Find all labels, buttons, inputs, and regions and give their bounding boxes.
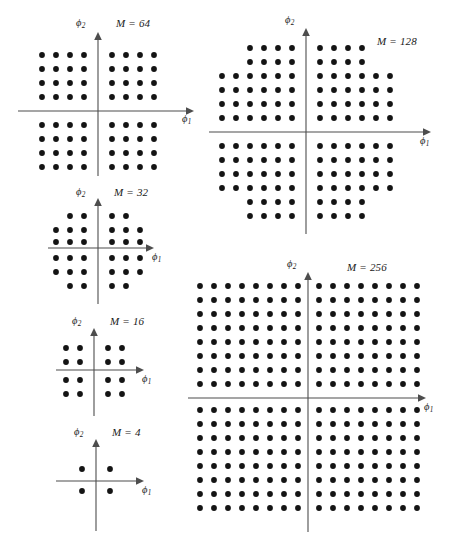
panel-m32: ϕ2 ϕ1 M = 32 — [48, 186, 198, 308]
y-axis-arrowhead — [94, 198, 102, 206]
m-label-m256: M = 256 — [347, 261, 387, 273]
panel-m64: ϕ2 ϕ1 M = 64 — [8, 14, 223, 184]
x-axis-label-m32: ϕ1 — [152, 252, 161, 264]
x-axis-label-m4: ϕ1 — [142, 485, 151, 497]
plot-area-m16 — [56, 312, 206, 420]
constellation-figure: ϕ2 ϕ1 M = 64 — [0, 0, 471, 551]
plot-area-m64 — [8, 14, 223, 184]
y-axis-arrowhead — [302, 28, 310, 36]
x-axis-label-m16: ϕ1 — [142, 374, 151, 386]
m-label-m128: M = 128 — [377, 35, 417, 47]
m-label-m32: M = 32 — [114, 186, 148, 198]
m-label-m16: M = 16 — [110, 315, 144, 327]
panel-m128: ϕ2 ϕ1 M = 128 — [205, 12, 471, 244]
y-axis-arrowhead — [92, 439, 100, 447]
panel-m16: ϕ2 ϕ1 M = 16 — [56, 312, 206, 420]
plot-area-m4 — [56, 425, 206, 535]
y-axis-label-m256: ϕ2 — [287, 259, 296, 271]
y-axis-arrowhead — [90, 328, 98, 336]
axes-m16 — [56, 328, 144, 416]
y-axis-label-m128: ϕ2 — [285, 15, 294, 27]
y-axis-label-m4: ϕ2 — [74, 427, 83, 439]
plot-area-m32 — [48, 186, 198, 308]
m-label-m64: M = 64 — [116, 17, 150, 29]
y-axis-label-m32: ϕ2 — [76, 187, 85, 199]
y-axis-arrowhead — [94, 32, 102, 40]
panel-m4: ϕ2 ϕ1 M = 4 — [56, 425, 206, 535]
plot-area-m128 — [205, 12, 471, 244]
y-axis-arrowhead — [304, 272, 312, 280]
y-axis-label-m64: ϕ2 — [76, 18, 85, 30]
m-label-m4: M = 4 — [112, 426, 141, 438]
x-axis-label-m64: ϕ1 — [182, 114, 191, 126]
x-axis-label-m128: ϕ1 — [420, 136, 429, 148]
y-axis-label-m16: ϕ2 — [72, 316, 81, 328]
axes-m4 — [56, 439, 144, 531]
axes-m32 — [48, 198, 154, 304]
panel-m256: ϕ2 ϕ1 M = 256 — [188, 258, 471, 551]
x-axis-label-m256: ϕ1 — [424, 402, 433, 414]
